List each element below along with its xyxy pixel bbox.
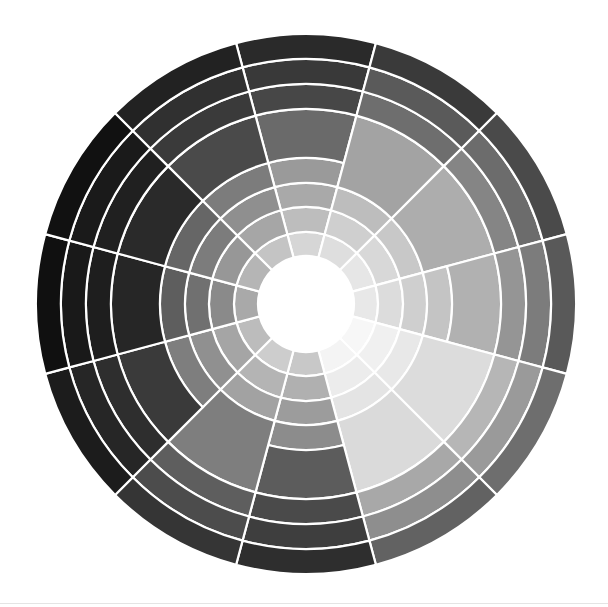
sector-6-oclock-band-1 (281, 374, 331, 401)
sector-12-oclock-band-1 (281, 207, 331, 234)
sector-9-oclock-band-1 (209, 279, 236, 329)
bottom-divider (0, 603, 608, 604)
sector-12-oclock-band-3 (268, 158, 344, 187)
sector-3-oclock-band-1 (376, 279, 403, 329)
sector-6-oclock-band-2 (275, 398, 338, 425)
sector-3-oclock-band-4 (447, 254, 501, 355)
sector-3-oclock-band-3 (423, 266, 452, 342)
sector-6-oclock-band-3 (268, 421, 344, 450)
color-wheel (0, 0, 608, 607)
sector-3-oclock-band-2 (400, 273, 427, 336)
sector-12-oclock-band-2 (275, 183, 338, 210)
sector-6-oclock-band-4 (256, 445, 357, 499)
sector-9-oclock-band-3 (160, 266, 189, 342)
sector-9-oclock-band-4 (111, 254, 165, 355)
sector-12-oclock-band-4 (256, 109, 357, 163)
wheel-hub (258, 256, 354, 352)
sector-9-oclock-band-2 (185, 273, 212, 336)
